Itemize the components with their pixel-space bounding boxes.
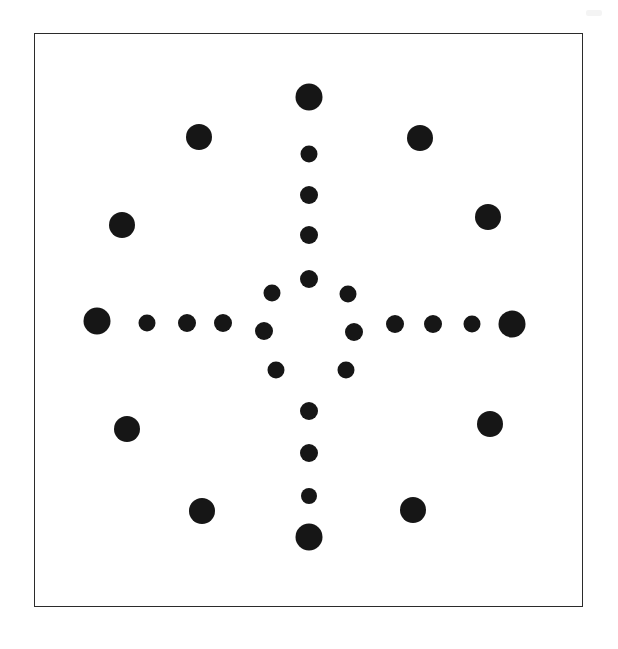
- dot-horizontal-arm-right-4: [499, 311, 526, 338]
- dot-vertical-arm-up-0: [296, 84, 323, 111]
- dot-outer-diagonal-outer-pair-2: [114, 416, 140, 442]
- dot-vertical-arm-up-3: [300, 226, 318, 244]
- figure-frame: [34, 33, 583, 607]
- dot-vertical-arm-up-4: [300, 270, 318, 288]
- dot-inner-ring-diagonal-2: [268, 362, 285, 379]
- dot-horizontal-arm-right-2: [424, 315, 442, 333]
- dot-horizontal-arm-left-3: [214, 314, 232, 332]
- dot-outer-diagonal-inner-pair-1: [407, 125, 433, 151]
- dot-vertical-arm-down-3: [296, 524, 323, 551]
- dot-outer-diagonal-outer-pair-0: [109, 212, 135, 238]
- dot-outer-diagonal-inner-pair-3: [400, 497, 426, 523]
- figure-root: [0, 0, 618, 649]
- dot-vertical-arm-down-0: [300, 402, 318, 420]
- dot-outer-diagonal-outer-pair-3: [477, 411, 503, 437]
- dot-vertical-arm-down-2: [301, 488, 317, 504]
- dot-horizontal-arm-left-2: [178, 314, 196, 332]
- dot-inner-ring-diagonal-3: [338, 362, 355, 379]
- dot-horizontal-arm-right-1: [386, 315, 404, 333]
- dot-inner-ring-diagonal-1: [340, 286, 357, 303]
- dot-horizontal-arm-left-4: [255, 322, 273, 340]
- dot-vertical-arm-up-2: [300, 186, 318, 204]
- dot-vertical-arm-up-1: [301, 146, 318, 163]
- scan-artifact: [586, 10, 602, 16]
- dot-horizontal-arm-right-0: [345, 323, 363, 341]
- dot-vertical-arm-down-1: [300, 444, 318, 462]
- dot-outer-diagonal-outer-pair-1: [475, 204, 501, 230]
- dot-horizontal-arm-right-3: [464, 316, 481, 333]
- dot-outer-diagonal-inner-pair-0: [186, 124, 212, 150]
- dot-outer-diagonal-inner-pair-2: [189, 498, 215, 524]
- dot-inner-ring-diagonal-0: [264, 285, 281, 302]
- dot-horizontal-arm-left-0: [84, 308, 111, 335]
- dot-horizontal-arm-left-1: [139, 315, 156, 332]
- dot-canvas: [35, 34, 582, 606]
